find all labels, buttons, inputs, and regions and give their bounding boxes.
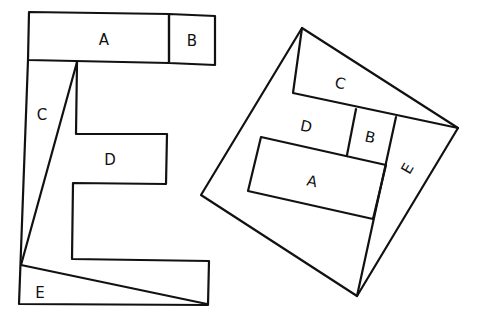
e-outline [19,60,209,305]
divider-d-b [347,109,356,155]
label-a-left: A [99,31,110,49]
label-b-left: B [187,32,197,50]
label-e-right: E [397,160,417,177]
label-d-left: D [104,151,116,169]
piece-c-diagonal [21,62,77,265]
label-c-right: C [333,74,347,94]
square-figure [201,28,458,296]
letter-e-figure [19,12,215,305]
dissection-diagram: A B C D E C D B A E [0,0,480,323]
piece-e-diagonal [21,265,207,304]
label-b-right: B [363,128,377,148]
label-d-right: D [299,117,314,137]
label-a-right: A [305,172,320,192]
label-e-left: E [35,284,44,302]
square-outline [201,28,458,296]
label-c-left: C [37,106,47,124]
